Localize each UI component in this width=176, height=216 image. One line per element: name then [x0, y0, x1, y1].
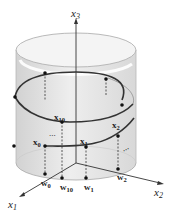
ellipsis-left: ...: [49, 128, 56, 138]
point-w2: [116, 167, 120, 171]
x2-arrow-icon: [157, 181, 164, 185]
point-w10: [60, 176, 64, 180]
cylinder-diagram: x3 x1 x2 x10 x0 x1 x2 w0 w10 w1 w2 ... .…: [0, 0, 176, 216]
label-w1: w1: [84, 182, 94, 193]
label-x3: x3: [70, 7, 80, 21]
label-w2: w2: [117, 172, 127, 183]
label-w0: w0: [41, 178, 51, 189]
x1-arrow-icon: [19, 192, 25, 197]
label-x2: x2: [153, 186, 163, 200]
point-w1: [84, 176, 88, 180]
label-x1: x1: [7, 198, 17, 212]
point-w0: [43, 172, 47, 176]
point-x0: [43, 144, 47, 148]
label-w10: w10: [60, 182, 73, 193]
point-x2: [116, 134, 120, 138]
